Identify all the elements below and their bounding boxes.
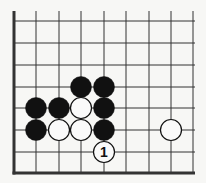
stones: 1 xyxy=(26,77,182,163)
black-stone xyxy=(49,98,70,119)
black-stone xyxy=(71,77,92,98)
white-stone xyxy=(161,120,182,141)
black-stone xyxy=(94,120,115,141)
white-stone xyxy=(71,98,92,119)
white-stone xyxy=(49,120,70,141)
move-number-label: 1 xyxy=(100,144,108,160)
white-stone xyxy=(71,120,92,141)
black-stone xyxy=(26,98,47,119)
black-stone xyxy=(94,77,115,98)
black-stone xyxy=(94,98,115,119)
go-board: 1 xyxy=(0,0,206,183)
black-stone xyxy=(26,120,47,141)
